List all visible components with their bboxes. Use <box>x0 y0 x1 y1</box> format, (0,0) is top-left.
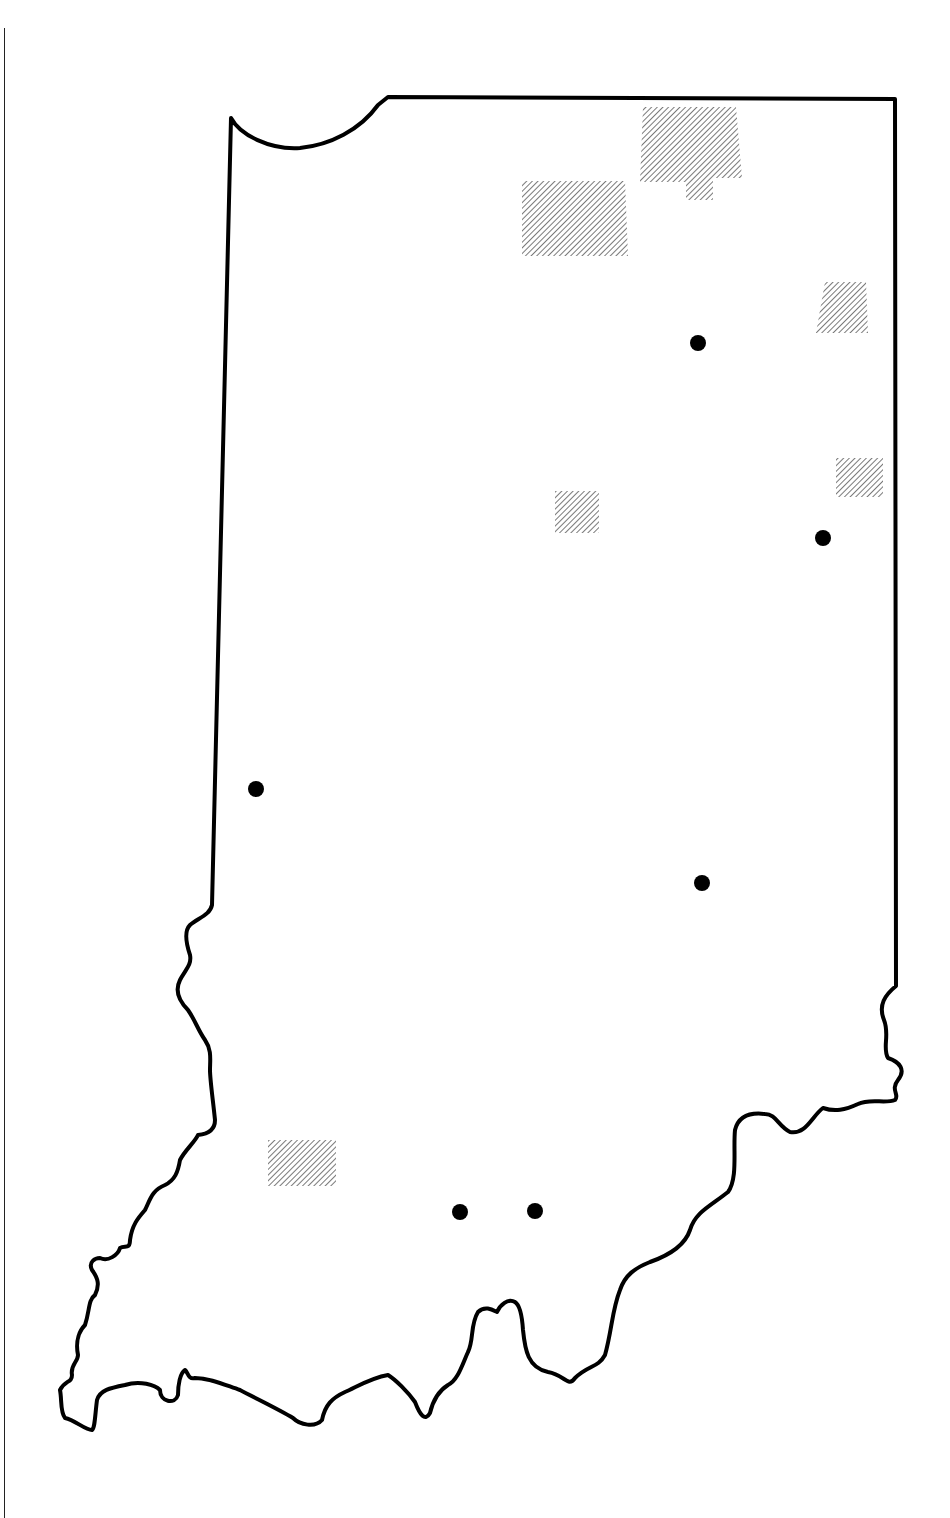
hatched-area-central-1 <box>555 491 599 533</box>
state-outline <box>60 97 902 1430</box>
hatched-area-southwest-1 <box>268 1140 336 1186</box>
hatched-area-east-1 <box>836 458 883 497</box>
hatched-area-northeast-1 <box>816 282 868 333</box>
dot-northeast <box>690 335 706 351</box>
dot-south-1 <box>452 1204 468 1220</box>
hatched-area-north-2 <box>522 181 628 256</box>
indiana-map <box>0 0 950 1518</box>
dot-east <box>815 530 831 546</box>
dot-south-2 <box>527 1203 543 1219</box>
dot-central-east <box>694 875 710 891</box>
dot-west <box>248 781 264 797</box>
